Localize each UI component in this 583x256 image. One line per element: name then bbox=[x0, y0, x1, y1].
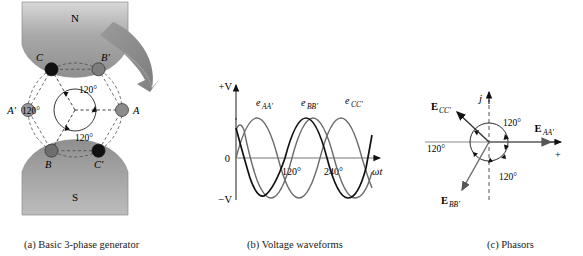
coil-label-A: A bbox=[132, 105, 140, 116]
curve-label-eBB: e BB' bbox=[301, 97, 318, 111]
coil-label-C: C bbox=[36, 52, 44, 63]
phasor-label-EBB: E BB' bbox=[441, 195, 460, 209]
coil-label-B: B bbox=[45, 159, 52, 170]
caption-panel-c: (c) Phasors bbox=[487, 239, 534, 250]
y-axis-zero-label: 0 bbox=[225, 153, 230, 164]
coil-dot-B bbox=[45, 144, 58, 157]
svg-text:CC': CC' bbox=[439, 106, 451, 115]
phasor-angle-label-bottom: 120° bbox=[499, 172, 517, 182]
curve-label-eCC: e CC' bbox=[345, 95, 363, 109]
panel-generator: N S A B' C A' B C' 120° 120° 120° bbox=[0, 0, 200, 225]
caption-panel-a: (a) Basic 3-phase generator bbox=[24, 239, 139, 250]
svg-text:E: E bbox=[534, 123, 541, 134]
svg-text:E: E bbox=[441, 195, 448, 206]
phasor-vector-ECC bbox=[457, 112, 489, 142]
svg-text:AA': AA' bbox=[542, 128, 554, 137]
svg-text:AA': AA' bbox=[261, 102, 273, 111]
svg-text:BB': BB' bbox=[307, 102, 318, 111]
waveform-chart: +V 0 −V ωt 120° 240° e AA' e BB' e CC' bbox=[200, 0, 405, 225]
coil-label-Aprime: A' bbox=[6, 105, 16, 116]
imaginary-axis-label: j bbox=[477, 92, 482, 104]
generator-diagram: N S A B' C A' B C' 120° 120° 120° bbox=[0, 0, 200, 225]
angle-label-top: 120° bbox=[79, 85, 97, 95]
x-axis-label: ωt bbox=[372, 166, 383, 177]
svg-text:BB': BB' bbox=[449, 200, 460, 209]
real-axis-label: + bbox=[555, 149, 561, 160]
coil-dot-C bbox=[45, 63, 58, 76]
angle-label-left: 120° bbox=[22, 106, 40, 116]
angle-label-bottom: 120° bbox=[75, 133, 93, 143]
phasor-diagram: + j E AA' E CC' E BB' 120° 120° 120° bbox=[405, 0, 583, 225]
coil-label-Cprime: C' bbox=[94, 159, 104, 170]
svg-text:E: E bbox=[431, 101, 438, 112]
phasor-angle-label-top: 120° bbox=[503, 118, 521, 128]
phasor-angle-label-left: 120° bbox=[427, 144, 445, 154]
phasor-vector-EBB bbox=[462, 142, 489, 190]
svg-text:e: e bbox=[301, 97, 306, 108]
coil-dot-Bprime bbox=[92, 63, 105, 76]
svg-text:CC': CC' bbox=[351, 100, 363, 109]
coil-dot-A bbox=[116, 104, 129, 117]
coil-label-Bprime: B' bbox=[101, 52, 110, 63]
north-pole-label: N bbox=[71, 12, 79, 24]
phasor-label-ECC: E CC' bbox=[431, 101, 451, 115]
phasor-label-EAA: E AA' bbox=[534, 123, 554, 137]
svg-text:e: e bbox=[256, 97, 261, 108]
phase-marker-120: 120° bbox=[282, 166, 301, 177]
panel-phasors: + j E AA' E CC' E BB' 120° 120° 120° bbox=[405, 0, 583, 225]
panel-waveforms: +V 0 −V ωt 120° 240° e AA' e BB' e CC' bbox=[200, 0, 405, 225]
svg-text:e: e bbox=[345, 95, 350, 106]
caption-panel-b: (b) Voltage waveforms bbox=[247, 239, 343, 250]
y-axis-top-label: +V bbox=[218, 81, 232, 92]
phase-marker-240: 240° bbox=[324, 166, 343, 177]
y-axis-bottom-label: −V bbox=[218, 194, 232, 205]
south-pole-label: S bbox=[72, 191, 78, 203]
curve-label-eAA: e AA' bbox=[256, 97, 273, 111]
coil-dot-Cprime bbox=[92, 144, 105, 157]
